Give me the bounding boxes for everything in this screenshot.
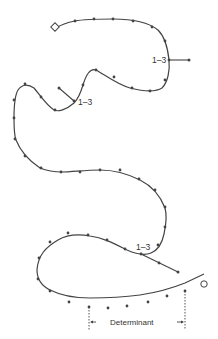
branch-2-label: 1–3 <box>78 97 92 107</box>
branch-3-end-dot <box>177 271 180 274</box>
branch-1-label: 1–3 <box>152 55 166 65</box>
end-marker-icon <box>201 281 207 287</box>
trajectory-diagram: 1–3 1–3 1–3 Determinant <box>0 0 218 339</box>
branch-1-end-dot <box>188 59 191 62</box>
start-marker-icon <box>51 23 59 31</box>
branch-2-end-dot <box>58 87 61 90</box>
branch-2-line <box>59 88 74 101</box>
dimension-right-arrow-icon <box>177 321 184 324</box>
branch-3-label: 1–3 <box>136 242 150 252</box>
determinant-label: Determinant <box>110 318 154 327</box>
dimension-left-arrow-icon <box>90 321 96 324</box>
branch-3-dot-mid <box>158 262 161 265</box>
main-trajectory-path <box>14 19 204 298</box>
